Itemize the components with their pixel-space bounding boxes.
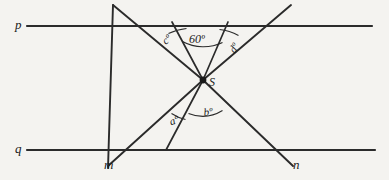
label-angle-b: bº — [203, 106, 213, 118]
transversal-n-upper — [203, 5, 291, 80]
label-vertex-s: S — [209, 76, 215, 88]
label-angle-sixty: 60º — [189, 33, 205, 45]
label-line-q: q — [15, 142, 22, 155]
transversal-m-lower — [108, 80, 203, 166]
transversal-n-lower — [203, 80, 293, 166]
transversal-m — [108, 5, 113, 168]
label-line-m: m — [104, 158, 113, 171]
diagram-canvas — [0, 0, 389, 180]
geometry-diagram: p q m n S cº 60º dº aº bº — [0, 0, 389, 180]
vertex-point-s — [200, 77, 207, 84]
label-line-n: n — [293, 158, 300, 171]
label-line-p: p — [15, 18, 22, 31]
